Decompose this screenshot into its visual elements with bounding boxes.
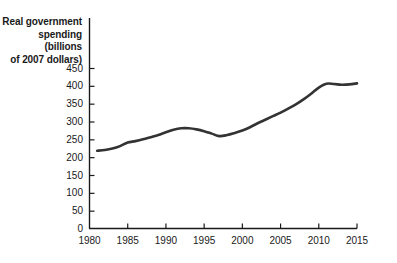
y-tick-label: 200: [66, 152, 83, 163]
x-tick-label: 2010: [308, 235, 331, 246]
x-axis-tick-labels: 19801985199019952000200520102015: [78, 235, 368, 246]
y-tick-label: 400: [66, 80, 83, 91]
y-tick-label: 150: [66, 170, 83, 181]
y-tick-label: 250: [66, 134, 83, 145]
y-axis-tick-labels: 050100150200250300350400450: [66, 63, 83, 235]
x-tick-label: 2005: [269, 235, 292, 246]
x-tick-label: 1985: [117, 235, 140, 246]
data-series-line: [97, 83, 357, 150]
y-tick-label: 0: [77, 223, 83, 234]
y-axis-tick-marks: [90, 69, 95, 212]
y-tick-label: 350: [66, 98, 83, 109]
y-tick-label: 300: [66, 116, 83, 127]
x-tick-label: 1995: [193, 235, 216, 246]
line-chart-plot: 050100150200250300350400450 198019851990…: [0, 0, 397, 263]
x-tick-label: 1990: [155, 235, 178, 246]
x-tick-label: 2000: [231, 235, 254, 246]
y-tick-label: 50: [72, 205, 84, 216]
chart-container: Real government spending (billions of 20…: [0, 0, 397, 263]
x-axis-tick-marks: [128, 224, 357, 229]
x-tick-label: 2015: [346, 235, 369, 246]
y-tick-label: 450: [66, 63, 83, 74]
y-tick-label: 100: [66, 187, 83, 198]
x-tick-label: 1980: [78, 235, 101, 246]
